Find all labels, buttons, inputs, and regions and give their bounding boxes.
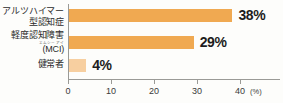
x-axis-tick-label: 0 — [65, 86, 70, 97]
category-label-healthy: 健常者 — [38, 59, 64, 70]
bar-value-mci: 29% — [200, 34, 227, 50]
category-label-line: 健常者 — [38, 59, 64, 70]
category-label-line: 型認知症 — [2, 17, 64, 28]
x-axis-unit-label: (%) — [250, 87, 262, 97]
category-axis-labels: アルツハイマー 型認知症 軽度認知障害 エムシーアイ (MCI) 健常者 — [0, 0, 66, 79]
bar-healthy — [69, 59, 86, 72]
x-axis-tick-label: 40 — [235, 86, 245, 97]
bar-chart: アルツハイマー 型認知症 軽度認知障害 エムシーアイ (MCI) 健常者 0 1… — [0, 0, 283, 103]
ruby-annotation-wrap: エムシーアイ (MCI) — [11, 41, 64, 55]
category-label-alzheimer: アルツハイマー 型認知症 — [2, 6, 64, 27]
bar-mci — [69, 36, 194, 49]
x-axis-tick — [240, 79, 241, 84]
category-label-line: 軽度認知障害 — [11, 30, 64, 41]
x-axis-tick — [111, 79, 112, 84]
x-axis-tick-label: 10 — [106, 86, 116, 97]
bar-alzheimer — [69, 9, 232, 22]
bar-value-alzheimer: 38% — [238, 7, 265, 23]
x-axis-tick-label: 30 — [192, 86, 202, 97]
x-axis-tick — [154, 79, 155, 84]
category-label-mci: 軽度認知障害 エムシーアイ (MCI) — [11, 30, 64, 54]
x-axis-tick — [197, 79, 198, 84]
category-label-line: (MCI) — [11, 44, 64, 55]
x-axis-tick-label: 20 — [149, 86, 159, 97]
category-label-line: アルツハイマー — [2, 6, 64, 17]
bar-value-healthy: 4% — [92, 57, 111, 73]
plot-area: 0 10 20 30 40 (%) 38% 29% 4% — [68, 0, 283, 103]
x-axis-tick — [68, 79, 69, 84]
x-axis-line — [68, 79, 280, 80]
